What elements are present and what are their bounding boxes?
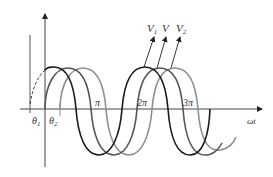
phasor-waveform-diagram: V1 V V2 π 2π 3π θ1 θ2 ωt [0,0,273,177]
label-v2: V2 [176,22,187,36]
x-axis-label: ωt [247,116,256,126]
v1-pointer-arrow [144,37,154,67]
label-v1: V1 [147,22,157,36]
tick-3pi: 3π [182,97,194,108]
tick-2pi: 2π [137,97,148,108]
tick-pi: π [95,97,101,108]
label-v: V [162,22,170,34]
v-pointer-arrow [157,37,166,68]
v2-pointer-arrow [171,37,180,68]
v1-dashed-segment [30,70,45,104]
curve-v [45,68,222,155]
curve-v1 [45,67,210,155]
label-theta2: θ2 [49,115,58,128]
label-theta1: θ1 [32,115,40,128]
